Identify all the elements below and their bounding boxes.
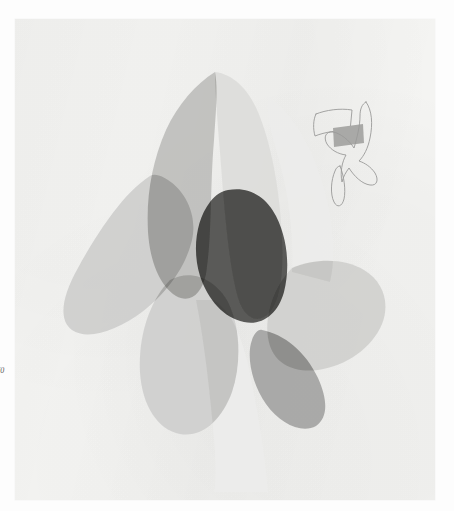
plate-caption: 70	[0, 366, 4, 375]
scanned-page: 70	[0, 0, 454, 511]
abstract-artwork	[0, 0, 454, 511]
doodle-tail-shape	[331, 166, 344, 206]
